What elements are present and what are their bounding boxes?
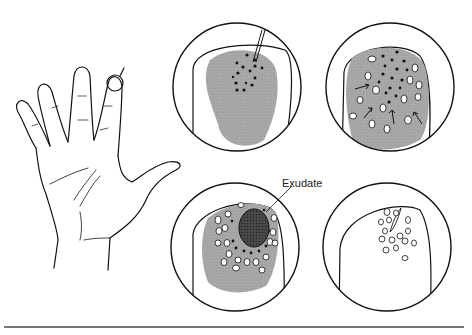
- figure: Exudate: [0, 0, 472, 335]
- stage-4: [323, 183, 451, 320]
- stage-3: [171, 183, 299, 320]
- illustration: [0, 0, 472, 335]
- divider: [4, 326, 464, 328]
- exudate-label: Exudate: [282, 177, 322, 189]
- stage-2: [326, 23, 454, 160]
- stage-1: [173, 23, 301, 160]
- hand-drawing: [17, 67, 180, 270]
